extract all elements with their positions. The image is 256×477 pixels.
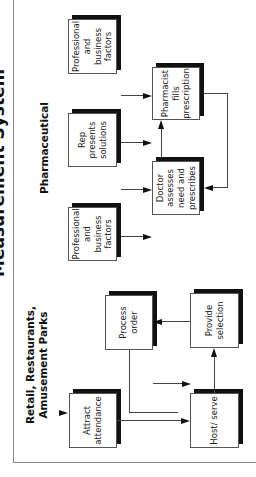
connector-feedback-down <box>204 93 227 94</box>
prof-factors-doctor-box: Professional and business factors <box>68 207 117 261</box>
arrow-doctor-to-pharmacist <box>158 120 164 129</box>
attract-attendance-label: Attract attendance <box>82 394 103 447</box>
arrow-prof-to-doctor <box>143 235 152 241</box>
prof-factors-doctor-label: Professional and business factors <box>71 208 114 260</box>
process-order-label: Process order <box>118 296 139 349</box>
arrow-to-process <box>153 320 162 326</box>
diagram-title: Measurement System <box>0 69 8 277</box>
doctor-label: Doctor assesses need and prescribes <box>155 162 198 214</box>
arrow-feedback-to-doctor <box>204 186 213 192</box>
connector-doctor-to-pharmacist <box>161 129 162 157</box>
process-order-box: Process order <box>105 295 153 350</box>
host-serve-label: Host/ serve <box>209 396 220 444</box>
arrow-prof-to-pharmacist <box>143 94 152 100</box>
connector-rep-to-pharmacist <box>121 142 143 143</box>
rep-presents-box: Rep presents solutions <box>68 113 117 167</box>
connector-process-to-attract-v <box>129 412 178 413</box>
provide-selection-label: Provide selection <box>204 294 225 347</box>
retail-heading: Retail, Restaurants, Amusement Parks <box>24 305 50 425</box>
connector-feedback-up <box>213 187 227 188</box>
connector-attract-host <box>117 420 181 421</box>
pharmacist-label: Pharmacist fills prescription <box>160 68 192 119</box>
host-serve-box: Host/ serve <box>190 393 239 448</box>
arrow-process-down <box>182 382 191 388</box>
arrow-to-provide <box>211 348 217 357</box>
arrow-rep-to-pharmacist <box>143 141 152 147</box>
doctor-box: Doctor assesses need and prescribes <box>152 161 200 215</box>
connector-prof-to-doctor <box>121 236 143 237</box>
arrow-rep-to-doctor <box>143 188 152 194</box>
pharma-heading: Pharmaceutical <box>38 100 51 196</box>
arrow-to-host <box>181 419 190 425</box>
provide-selection-box: Provide selection <box>190 293 239 348</box>
pharmacist-box: Pharmacist fills prescription <box>152 67 200 120</box>
connector-prof-to-pharmacist <box>121 95 143 96</box>
connector-host-to-provide <box>214 357 215 393</box>
rep-presents-label: Rep presents solutions <box>77 114 109 166</box>
prof-factors-pharmacist-label: Professional and business factors <box>71 20 114 73</box>
attract-attendance-box: Attract attendance <box>69 393 117 448</box>
diagram-canvas: Measurement System Retail, Restaurants, … <box>0 0 256 477</box>
prof-factors-pharmacist-box: Professional and business factors <box>68 19 117 74</box>
arrow-to-attract <box>59 411 68 417</box>
connector-process-to-attract-h <box>129 350 130 413</box>
connector-rep-to-doctor <box>121 189 143 190</box>
connector-feedback-across <box>227 93 228 188</box>
connector-provide-to-process <box>160 321 190 322</box>
